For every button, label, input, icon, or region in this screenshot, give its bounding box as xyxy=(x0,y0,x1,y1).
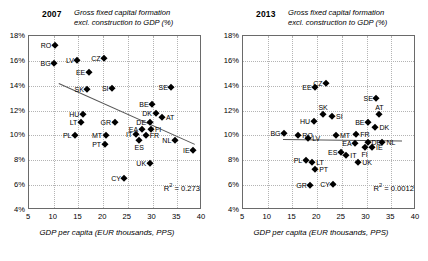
data-point-marker xyxy=(373,95,379,101)
data-point-marker xyxy=(159,114,165,120)
x-axis-tick-label: 5 xyxy=(231,212,253,221)
gridline-horizontal xyxy=(29,111,200,112)
x-axis-tick-label: 40 xyxy=(190,212,212,221)
data-point-label: UK xyxy=(362,158,372,165)
data-point-label: AT xyxy=(375,104,383,111)
data-point-marker xyxy=(353,131,359,137)
data-point-label: NL xyxy=(386,138,395,145)
x-axis-tick-label: 20 xyxy=(91,212,113,221)
data-point-marker xyxy=(80,111,86,117)
data-point-marker xyxy=(51,41,57,47)
data-point-label: CY xyxy=(320,180,330,187)
data-point-label: HU xyxy=(69,111,79,118)
data-point-marker xyxy=(121,174,127,180)
gridline-horizontal xyxy=(29,160,200,161)
data-point-marker xyxy=(372,123,378,129)
data-point-label: FI xyxy=(361,151,367,158)
data-point-marker xyxy=(329,112,335,118)
data-point-label: BG xyxy=(270,129,280,136)
y-axis-tick-label: 12% xyxy=(0,105,25,114)
r-squared-annotation: R2 = 0.273 xyxy=(164,182,200,193)
data-point-label: SI xyxy=(336,112,343,119)
data-point-label: UK xyxy=(136,159,146,166)
x-axis-tick-label: 10 xyxy=(42,212,64,221)
data-point-label: HU xyxy=(300,117,310,124)
data-point-label: SK xyxy=(318,104,327,111)
data-point-label: IE xyxy=(376,143,383,150)
data-point-label: CZ xyxy=(91,55,100,62)
x-axis-tick-label: 15 xyxy=(280,212,302,221)
x-axis-tick-label: 20 xyxy=(305,212,327,221)
data-point-label: GR xyxy=(296,182,307,189)
data-point-marker xyxy=(84,86,90,92)
data-point-label: DE xyxy=(136,118,146,125)
data-point-label: LV xyxy=(312,134,320,141)
gridline-horizontal xyxy=(243,111,414,112)
data-point-label: SE xyxy=(159,83,168,90)
data-point-label: PL xyxy=(63,132,72,139)
y-axis-tick-label: 8% xyxy=(0,155,25,164)
data-point-marker xyxy=(138,126,144,132)
data-point-label: SE xyxy=(364,95,373,102)
y-axis-tick-label: 14% xyxy=(212,80,239,89)
r-squared-annotation: R2 = 0.0012 xyxy=(374,182,415,193)
gridline-horizontal xyxy=(243,61,414,62)
data-point-marker xyxy=(142,132,148,138)
data-point-marker xyxy=(376,111,382,117)
x-axis-tick-label: 15 xyxy=(66,212,88,221)
scatter-figure-pair: 2007Gross fixed capital formationexcl. c… xyxy=(0,0,428,261)
x-axis-title: GDP per capita (EUR thousands, PPS) xyxy=(214,228,428,237)
data-point-marker xyxy=(303,157,309,163)
gridline-horizontal xyxy=(243,135,414,136)
data-point-marker xyxy=(72,132,78,138)
y-axis-tick-label: 16% xyxy=(0,55,25,64)
y-axis-tick-label: 18% xyxy=(212,31,239,40)
data-point-marker xyxy=(111,118,117,124)
y-axis-tick-label: 14% xyxy=(0,80,25,89)
y-axis-tick-label: 16% xyxy=(212,55,239,64)
data-point-label: BE xyxy=(139,101,148,108)
x-axis-tick-label: 35 xyxy=(165,212,187,221)
chart-panel-2013: 2013Gross fixed capital formationexcl. c… xyxy=(214,0,428,261)
data-point-label: EE xyxy=(76,69,85,76)
data-point-label: PL xyxy=(294,157,303,164)
data-point-label: AT xyxy=(166,113,174,120)
data-point-marker xyxy=(333,132,339,138)
data-point-label: LV xyxy=(66,56,74,63)
y-axis-tick-label: 6% xyxy=(0,180,25,189)
x-axis-tick-label: 30 xyxy=(355,212,377,221)
data-point-label: PT xyxy=(92,141,101,148)
data-point-label: IE xyxy=(183,147,190,154)
chart-year-label: 2013 xyxy=(256,9,276,19)
data-point-marker xyxy=(309,158,315,164)
data-point-label: RO xyxy=(41,41,52,48)
data-point-marker xyxy=(149,101,155,107)
y-axis-tick-label: 10% xyxy=(0,130,25,139)
data-point-label: EE xyxy=(302,83,311,90)
data-point-label: NL xyxy=(162,137,171,144)
gridline-horizontal xyxy=(243,86,414,87)
data-point-marker xyxy=(86,69,92,75)
x-axis-tick-label: 25 xyxy=(116,212,138,221)
data-point-label: IT xyxy=(350,152,356,159)
data-point-marker xyxy=(330,181,336,187)
x-axis-tick-label: 5 xyxy=(17,212,39,221)
data-point-label: MT xyxy=(92,132,102,139)
data-point-label: CY xyxy=(111,174,121,181)
data-point-label: GR xyxy=(101,118,112,125)
data-point-marker xyxy=(74,56,80,62)
data-point-label: SK xyxy=(74,86,83,93)
data-point-marker xyxy=(343,152,349,158)
x-axis-tick-label: 10 xyxy=(256,212,278,221)
data-point-label: PT xyxy=(319,165,328,172)
data-point-label: ES xyxy=(328,148,337,155)
chart-year-label: 2007 xyxy=(42,9,62,19)
y-axis-tick-label: 10% xyxy=(212,130,239,139)
data-point-marker xyxy=(295,132,301,138)
data-point-label: DK xyxy=(379,123,389,130)
data-point-label: LT xyxy=(70,118,78,125)
data-point-label: BE xyxy=(355,118,364,125)
x-axis-tick-label: 40 xyxy=(404,212,426,221)
data-point-marker xyxy=(168,84,174,90)
data-point-label: LT xyxy=(316,158,324,165)
